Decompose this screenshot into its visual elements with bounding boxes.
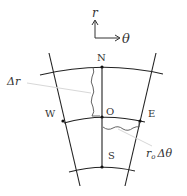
axes-indicator <box>92 20 120 41</box>
theta-axis-label: θ <box>122 31 130 46</box>
delta-r-label: Δr <box>6 75 21 88</box>
r-axis-label: r <box>92 6 99 20</box>
arc-subscript: o <box>151 153 155 161</box>
arc-length-label: roΔθ <box>146 147 172 161</box>
node-s-label: S <box>108 150 115 161</box>
west-radial-line <box>49 53 80 186</box>
node-n-label: N <box>97 52 106 63</box>
node-w-label: W <box>45 108 56 119</box>
polar-grid-diagram: r θ N O W E S Δr roΔθ <box>0 0 187 196</box>
node-o-dot <box>100 115 103 118</box>
origin-arc <box>64 117 145 123</box>
node-e-label: E <box>148 108 155 119</box>
node-o-label: O <box>106 106 114 117</box>
node-n-dot <box>100 65 103 68</box>
node-s-dot <box>100 165 103 168</box>
delta-r-leader <box>27 83 91 93</box>
arc-length-brace <box>103 122 139 130</box>
delta-r-brace <box>91 67 100 116</box>
arc-delta-theta: Δθ <box>156 147 172 160</box>
node-w-dot <box>61 119 64 122</box>
